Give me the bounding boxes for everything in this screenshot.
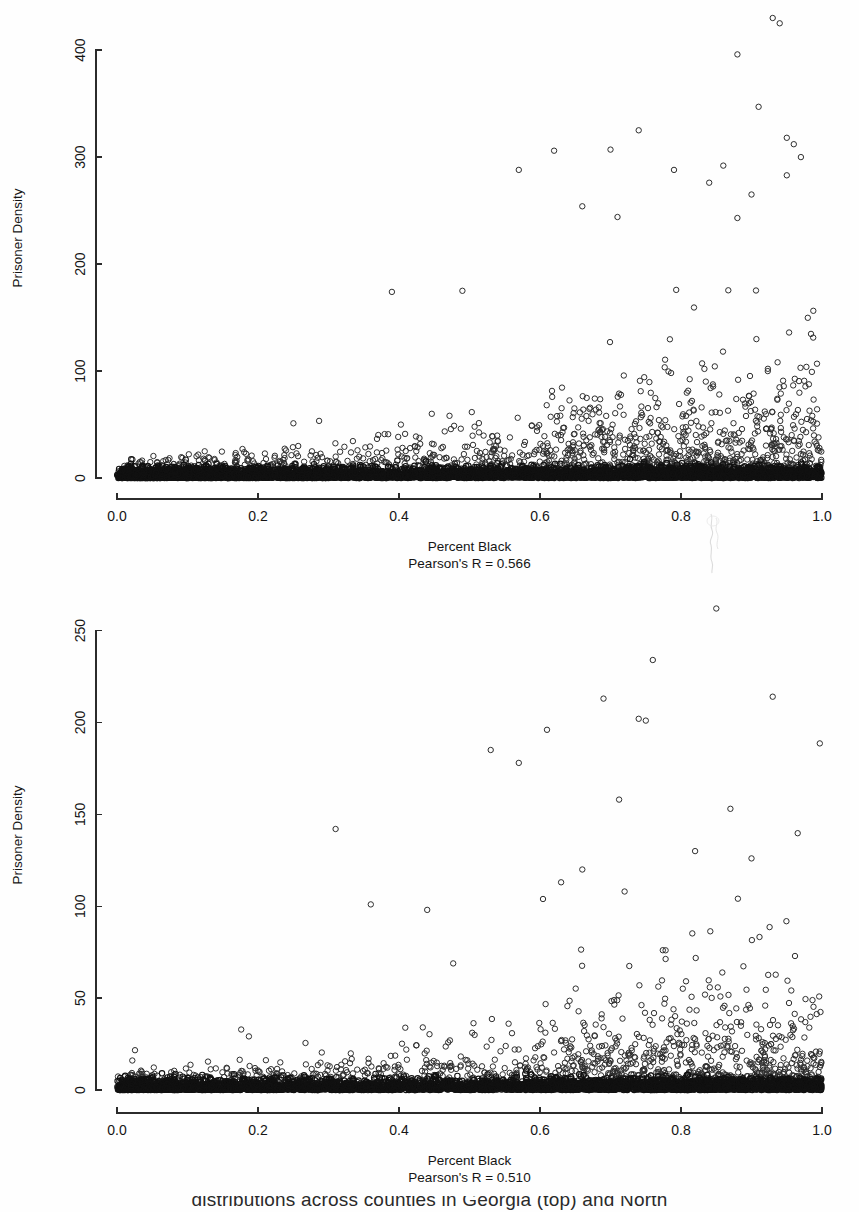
y-axis-tick-label: 200 <box>72 711 88 735</box>
figure-caption-clipped: distributions across counties in Georgia… <box>0 1196 859 1212</box>
x-axis-title: Percent Black <box>428 1153 512 1168</box>
scatter-plot-bottom: 050100150200250Prisoner Density0.00.20.4… <box>0 585 859 1212</box>
scatter-plot-top: 0100200300400Prisoner Density0.00.20.40.… <box>0 0 859 600</box>
y-axis-tick-label: 200 <box>72 252 88 276</box>
scatter-point-cloud <box>115 606 824 1093</box>
y-axis-line <box>96 631 102 1090</box>
x-axis-tick-label: 0.2 <box>248 508 268 524</box>
pearson-r-annotation: Pearson's R = 0.510 <box>408 1170 530 1185</box>
figure-caption-text: distributions across counties in Georgia… <box>0 1196 859 1211</box>
x-axis-tick-label: 1.0 <box>812 508 832 524</box>
y-axis-tick-label: 0 <box>72 474 88 482</box>
figure-page: 0100200300400Prisoner Density0.00.20.40.… <box>0 0 859 1212</box>
y-axis-tick-label: 100 <box>72 359 88 383</box>
y-axis-tick-label: 400 <box>72 38 88 62</box>
pearson-r-annotation: Pearson's R = 0.566 <box>408 556 530 571</box>
x-axis-tick-label: 0.6 <box>530 1122 550 1138</box>
x-axis-tick-label: 0.0 <box>107 508 127 524</box>
y-axis-title: Prisoner Density <box>10 785 25 884</box>
x-axis-tick-label: 0.6 <box>530 508 550 524</box>
x-axis-tick-label: 0.4 <box>389 1122 409 1138</box>
x-axis-title: Percent Black <box>428 539 512 554</box>
y-axis-tick-label: 100 <box>72 894 88 918</box>
y-axis-tick-label: 300 <box>72 145 88 169</box>
scatter-point-cloud <box>115 15 825 480</box>
y-axis-tick-label: 50 <box>72 990 88 1006</box>
scatter-panel-top: 0100200300400Prisoner Density0.00.20.40.… <box>0 0 859 600</box>
x-axis-line <box>117 1107 822 1113</box>
y-axis-tick-label: 250 <box>72 619 88 643</box>
y-axis-tick-label: 0 <box>72 1086 88 1094</box>
x-axis-tick-label: 0.0 <box>107 1122 127 1138</box>
y-axis-tick-label: 150 <box>72 802 88 826</box>
y-axis-title: Prisoner Density <box>10 188 25 287</box>
x-axis-tick-label: 1.0 <box>812 1122 832 1138</box>
x-axis-tick-label: 0.2 <box>248 1122 268 1138</box>
x-axis-line <box>117 493 822 499</box>
x-axis-tick-label: 0.4 <box>389 508 409 524</box>
scatter-panel-bottom: 050100150200250Prisoner Density0.00.20.4… <box>0 585 859 1212</box>
x-axis-tick-label: 0.8 <box>671 1122 691 1138</box>
x-axis-tick-label: 0.8 <box>671 508 691 524</box>
